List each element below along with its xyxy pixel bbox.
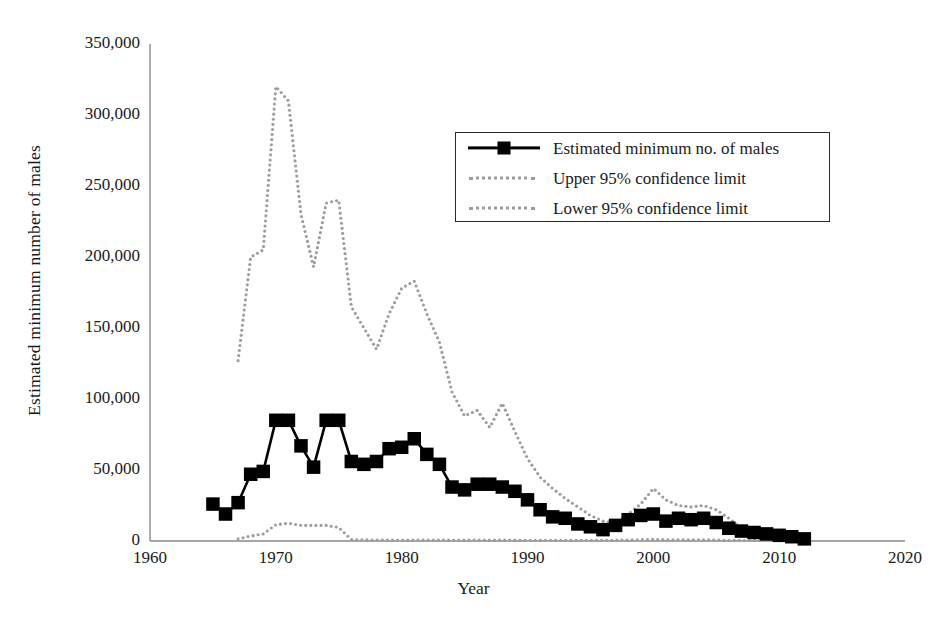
x-tick-label: 2000 (608, 548, 698, 568)
data-point-marker (420, 448, 434, 462)
data-point-marker (672, 512, 686, 526)
data-point-marker (257, 465, 271, 479)
data-point-marker (546, 510, 560, 524)
x-tick-label: 1970 (231, 548, 321, 568)
legend-label-upper-ci: Upper 95% confidence limit (553, 170, 746, 187)
data-point-marker (445, 480, 459, 494)
data-point-marker (760, 527, 774, 541)
legend-key-dotted-lower-icon (465, 197, 543, 219)
data-point-marker (345, 455, 359, 469)
data-point-marker (319, 414, 333, 428)
x-axis-title: Year (0, 578, 947, 599)
legend-item-upper-ci: Upper 95% confidence limit (456, 163, 829, 193)
x-tick-label: 2020 (860, 548, 947, 568)
legend-label-estimated-minimum: Estimated minimum no. of males (553, 140, 779, 157)
data-point-marker (609, 519, 623, 533)
legend-key-solid-line-marker-icon (465, 137, 543, 159)
data-point-marker (571, 517, 585, 531)
legend-key-dotted-upper-icon (465, 167, 543, 189)
data-point-marker (722, 521, 736, 535)
data-point-marker (621, 513, 635, 527)
data-point-marker (408, 432, 422, 446)
data-point-marker (370, 455, 384, 469)
data-point-marker (785, 530, 799, 544)
data-point-marker (735, 524, 749, 538)
x-tick-label: 1960 (105, 548, 195, 568)
data-point-marker (307, 460, 321, 474)
legend-item-estimated-minimum: Estimated minimum no. of males (456, 133, 829, 163)
data-point-marker (508, 485, 522, 499)
legend-item-lower-ci: Lower 95% confidence limit (456, 193, 829, 223)
data-point-marker (697, 512, 711, 526)
y-tick-label: 200,000 (45, 246, 140, 266)
data-point-marker (458, 483, 472, 497)
data-point-marker (596, 523, 610, 537)
y-tick-label: 300,000 (45, 104, 140, 124)
data-point-marker (483, 477, 497, 491)
data-point-marker (584, 520, 598, 534)
data-point-marker (294, 439, 308, 453)
data-point-marker (357, 458, 371, 472)
y-tick-label: 50,000 (45, 459, 140, 479)
data-point-marker (231, 496, 245, 510)
data-point-marker (798, 532, 812, 546)
data-point-marker (433, 458, 447, 472)
series-0-line (206, 414, 811, 546)
data-point-marker (470, 477, 484, 491)
data-point-marker (559, 512, 573, 526)
data-point-marker (269, 414, 283, 428)
data-point-marker (244, 468, 257, 482)
data-point-marker (772, 529, 786, 543)
data-point-marker (496, 480, 510, 494)
x-tick-label: 2010 (734, 548, 824, 568)
y-tick-label: 100,000 (45, 388, 140, 408)
y-tick-label: 0 (45, 530, 140, 550)
y-tick-label: 350,000 (45, 33, 140, 53)
data-point-marker (710, 516, 724, 530)
data-point-marker (206, 497, 220, 511)
data-point-marker (684, 513, 698, 527)
x-tick-label: 1990 (483, 548, 573, 568)
data-point-marker (395, 441, 409, 455)
data-point-marker (533, 503, 547, 517)
x-tick-label: 1980 (357, 548, 447, 568)
data-point-marker (282, 414, 296, 428)
data-point-marker (659, 514, 673, 528)
data-point-marker (521, 493, 535, 507)
data-point-marker (747, 526, 761, 540)
y-tick-label: 150,000 (45, 317, 140, 337)
y-tick-label: 250,000 (45, 175, 140, 195)
data-point-marker (634, 509, 648, 523)
data-point-marker (382, 442, 396, 456)
data-point-marker (647, 507, 661, 521)
chart-plot-area (0, 0, 947, 626)
chart-figure: Estimated minimum number of males Year 0… (0, 0, 947, 626)
chart-legend: Estimated minimum no. of males Upper 95%… (455, 132, 830, 222)
legend-label-lower-ci: Lower 95% confidence limit (553, 200, 748, 217)
data-point-marker (219, 507, 233, 521)
data-point-marker (332, 414, 346, 428)
